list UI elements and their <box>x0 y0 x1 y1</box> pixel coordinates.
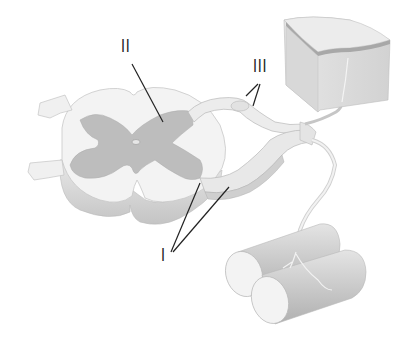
label-I: I <box>161 245 166 266</box>
central-canal <box>132 140 140 145</box>
label-III: III <box>253 56 267 77</box>
label-II: II <box>121 36 131 57</box>
muscle-fibers <box>220 224 366 329</box>
skin-block <box>284 17 390 112</box>
reflex-arc-diagram: II III I <box>0 0 411 357</box>
